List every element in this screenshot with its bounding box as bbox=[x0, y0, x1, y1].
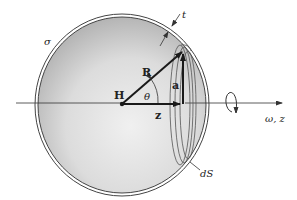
label-dS: dS bbox=[200, 168, 213, 179]
label-z: z bbox=[155, 109, 161, 122]
label-sigma: σ bbox=[44, 36, 52, 47]
dS-leader bbox=[190, 162, 200, 170]
label-R: R bbox=[142, 66, 152, 79]
label-a: a bbox=[172, 79, 179, 92]
thickness-pointer-outer bbox=[172, 14, 180, 26]
label-axis: ω, z bbox=[265, 113, 286, 124]
label-thickness: t bbox=[182, 9, 187, 20]
label-theta: θ bbox=[144, 91, 150, 102]
center-point-H bbox=[120, 102, 124, 106]
label-H: H bbox=[114, 89, 124, 102]
spherical-shell-diagram: σ t R H θ a z ω, z dS bbox=[0, 0, 297, 200]
